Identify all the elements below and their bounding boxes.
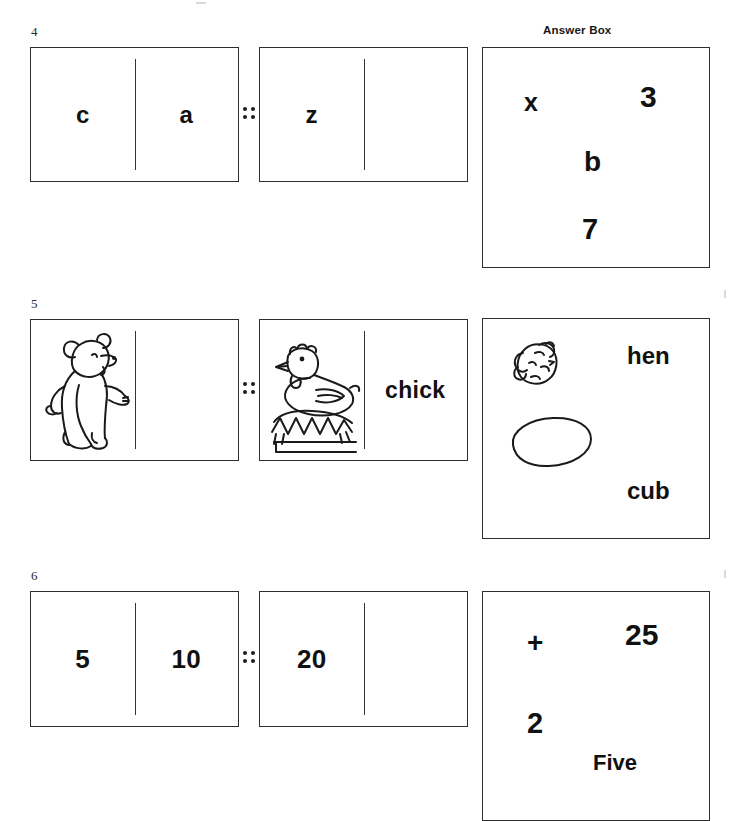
term-cell-right: chick: [364, 320, 468, 460]
term-box-a[interactable]: c a: [30, 47, 239, 182]
row-number: 5: [31, 296, 38, 312]
term-box-b[interactable]: chick: [259, 319, 468, 461]
answer-box: hen cub: [482, 318, 710, 539]
answer-option[interactable]: hen: [627, 344, 670, 368]
answer-option[interactable]: 25: [625, 620, 658, 650]
answer-box-label: Answer Box: [543, 24, 611, 36]
term-box-a[interactable]: [30, 319, 239, 461]
term-cell-right-text: chick: [385, 379, 445, 402]
answer-option[interactable]: x: [524, 90, 538, 115]
term-cell-right-blank[interactable]: [364, 48, 468, 181]
egg-picture-icon[interactable]: [503, 413, 599, 473]
answer-option[interactable]: Five: [593, 752, 637, 774]
term-cell-left: 20: [260, 592, 364, 726]
bear-picture-icon: [35, 328, 131, 456]
term-cell-left: c: [31, 48, 135, 181]
term-cell-right-text: a: [179, 103, 193, 127]
term-box-b[interactable]: 20: [259, 591, 468, 727]
term-cell-left: [31, 320, 135, 460]
chick-picture-icon[interactable]: [505, 337, 565, 397]
term-cell-left: [260, 320, 364, 460]
term-box-b[interactable]: z: [259, 47, 468, 182]
term-cell-left-text: 20: [297, 646, 327, 672]
term-cell-right-blank[interactable]: [364, 592, 468, 726]
term-cell-right-blank[interactable]: [135, 320, 239, 460]
proportion-icon: [243, 107, 256, 123]
term-cell-left-text: z: [306, 103, 318, 127]
proportion-icon: [243, 382, 256, 398]
term-cell-right: 10: [135, 592, 239, 726]
scan-speck: [724, 570, 726, 578]
term-cell-left: z: [260, 48, 364, 181]
answer-option[interactable]: 3: [640, 82, 657, 112]
term-cell-left-text: 5: [75, 646, 90, 672]
answer-option[interactable]: cub: [627, 479, 670, 503]
term-box-a[interactable]: 5 10: [30, 591, 239, 727]
answer-box: + 25 2 Five: [482, 591, 710, 821]
answer-option[interactable]: b: [584, 148, 601, 176]
answer-option[interactable]: +: [527, 629, 543, 657]
answer-option[interactable]: 2: [527, 709, 543, 738]
answer-option[interactable]: 7: [582, 215, 598, 244]
hen-on-nest-picture-icon: [260, 330, 364, 458]
term-cell-left: 5: [31, 592, 135, 726]
term-cell-right: a: [135, 48, 239, 181]
row-number: 6: [31, 568, 38, 584]
term-cell-left-text: c: [76, 103, 90, 127]
scan-speck: [724, 290, 726, 298]
answer-box: x 3 b 7: [482, 47, 710, 268]
proportion-icon: [243, 651, 256, 667]
scan-speck: [196, 2, 206, 4]
term-cell-right-text: 10: [171, 646, 201, 672]
row-number: 4: [31, 24, 38, 40]
